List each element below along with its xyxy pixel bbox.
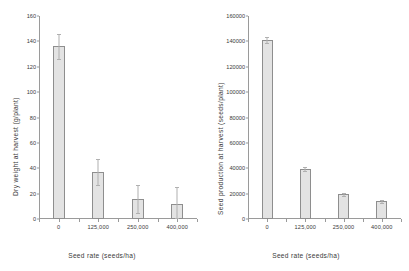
y-axis-tick-mark xyxy=(246,142,248,143)
error-bar-cap xyxy=(303,171,307,172)
y-axis-tick-label: 160000 xyxy=(226,13,248,19)
x-axis-tick-label: 0 xyxy=(265,224,268,230)
y-axis-tick-mark xyxy=(246,16,248,17)
x-axis-boundary-tick-mark xyxy=(118,219,119,222)
x-axis-tick-mark xyxy=(382,219,383,222)
error-bar-cap xyxy=(342,193,346,194)
y-axis-tick-label: 140000 xyxy=(226,38,248,44)
error-bar-cap xyxy=(175,187,179,188)
y-axis-tick-label: 100000 xyxy=(226,89,248,95)
error-bar-cap xyxy=(342,196,346,197)
chart-panel-dry-weight: Dry weight at harvest (g/plant) 02040608… xyxy=(0,0,204,271)
y-axis-tick-mark xyxy=(246,41,248,42)
y-axis-tick-mark xyxy=(246,193,248,194)
x-axis-boundary-tick-mark xyxy=(158,219,159,222)
x-axis-tick-label: 400,000 xyxy=(371,224,393,230)
y-axis-tick-mark xyxy=(246,117,248,118)
x-axis-tick-label: 400,000 xyxy=(166,224,188,230)
x-axis-boundary-tick-mark xyxy=(39,219,40,222)
error-bar xyxy=(177,187,178,217)
two-panel-bar-chart-figure: Dry weight at harvest (g/plant) 02040608… xyxy=(0,0,409,271)
y-axis-tick-mark xyxy=(246,92,248,93)
error-bar-cap xyxy=(96,159,100,160)
y-axis-tick-mark xyxy=(37,66,39,67)
x-axis-tick-label: 125,000 xyxy=(87,224,109,230)
error-bar-cap xyxy=(96,185,100,186)
chart-panel-seed-production: Seed production at harvest (seeds/plant)… xyxy=(204,0,408,271)
y-axis-tick-mark xyxy=(37,41,39,42)
y-axis-tick-mark xyxy=(37,193,39,194)
x-axis-tick-label: 0 xyxy=(57,224,60,230)
error-bar xyxy=(58,34,59,59)
error-bar-cap xyxy=(265,43,269,44)
x-axis-boundary-tick-mark xyxy=(363,219,364,222)
bar xyxy=(53,46,65,219)
plot-area: 0200004000060000800001000001200001400001… xyxy=(248,16,401,219)
y-axis-tick-mark xyxy=(37,16,39,17)
bar xyxy=(376,201,387,219)
y-axis-tick-mark xyxy=(246,168,248,169)
error-bar xyxy=(98,159,99,184)
x-axis-tick-mark xyxy=(138,219,139,222)
x-axis-tick-mark xyxy=(98,219,99,222)
error-bar-cap xyxy=(136,213,140,214)
x-axis-tick-mark xyxy=(305,219,306,222)
x-axis-tick-mark xyxy=(267,219,268,222)
error-bar xyxy=(137,185,138,213)
x-axis-boundary-tick-mark xyxy=(197,219,198,222)
y-axis-tick-mark xyxy=(246,66,248,67)
error-bar-cap xyxy=(380,203,384,204)
bar xyxy=(300,169,311,219)
x-axis-boundary-tick-mark xyxy=(286,219,287,222)
y-axis-line xyxy=(248,16,249,219)
bar xyxy=(262,40,273,219)
x-axis-tick-label: 125,000 xyxy=(295,224,317,230)
error-bar-cap xyxy=(303,167,307,168)
x-axis-tick-mark xyxy=(177,219,178,222)
y-axis-tick-mark xyxy=(37,168,39,169)
x-axis-tick-label: 250,000 xyxy=(127,224,149,230)
y-axis-tick-mark xyxy=(37,142,39,143)
y-axis-line xyxy=(39,16,40,219)
x-axis-title: Seed rate (seeds/ha) xyxy=(0,252,204,259)
x-axis-boundary-tick-mark xyxy=(79,219,80,222)
x-axis-title: Seed rate (seeds/ha) xyxy=(204,252,408,259)
error-bar-cap xyxy=(136,185,140,186)
error-bar-cap xyxy=(380,200,384,201)
y-axis-tick-label: 120000 xyxy=(226,64,248,70)
x-axis-tick-mark xyxy=(59,219,60,222)
bar xyxy=(338,194,349,219)
x-axis-boundary-tick-mark xyxy=(325,219,326,222)
y-axis-tick-mark xyxy=(37,92,39,93)
x-axis-tick-mark xyxy=(344,219,345,222)
error-bar-cap xyxy=(57,34,61,35)
x-axis-boundary-tick-mark xyxy=(248,219,249,222)
error-bar-cap xyxy=(57,59,61,60)
y-axis-tick-mark xyxy=(37,117,39,118)
error-bar-cap xyxy=(265,37,269,38)
y-axis-title: Dry weight at harvest (g/plant) xyxy=(12,97,19,196)
x-axis-tick-label: 250,000 xyxy=(333,224,355,230)
x-axis-boundary-tick-mark xyxy=(401,219,402,222)
plot-area: 0204060801001201401600125,000250,000400,… xyxy=(39,16,197,219)
y-axis-title: Seed production at harvest (seeds/plant) xyxy=(217,82,224,215)
